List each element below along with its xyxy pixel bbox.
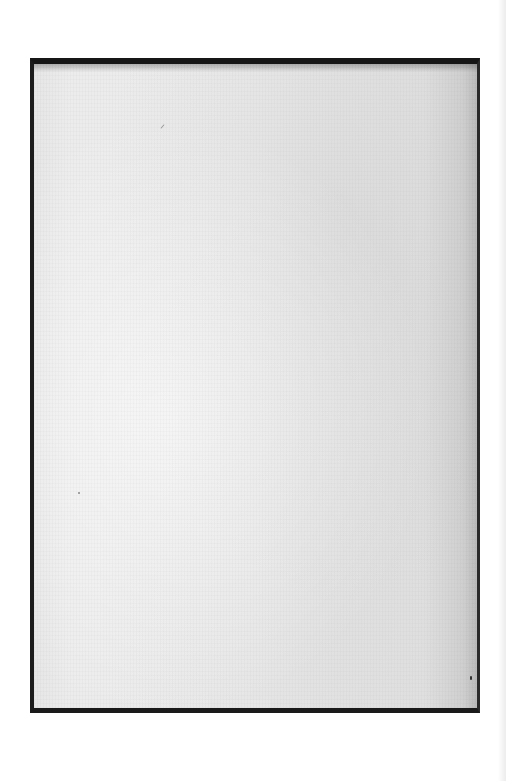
paper-speck (161, 124, 165, 128)
paper-speck (78, 492, 80, 494)
paper-speck (470, 676, 472, 680)
document-page (0, 0, 506, 781)
page-edge-shadow (498, 0, 506, 781)
scanned-blank-sheet (30, 58, 480, 713)
frame-top-shadow (34, 64, 477, 72)
